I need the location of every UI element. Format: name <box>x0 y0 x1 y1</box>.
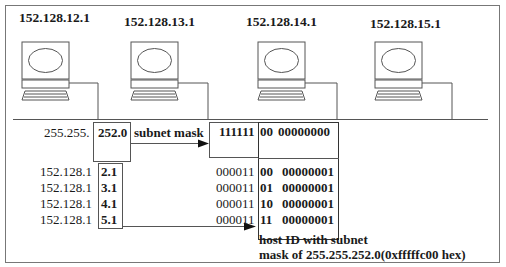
mask-network-bits: 111111 <box>219 124 254 139</box>
address-suffix: 3.1 <box>101 180 117 195</box>
address-prefix: 152.128.1 <box>40 212 92 227</box>
address-network-bits: 000011 <box>216 196 255 211</box>
divider <box>258 158 339 159</box>
mask-host-bits: 00000000 <box>278 124 330 139</box>
mask-subnet-bits: 00 <box>260 124 273 139</box>
computer-icon <box>22 42 69 100</box>
address-host-bits: 00000001 <box>282 196 334 211</box>
host-ip-label: 152.128.15.1 <box>370 16 441 31</box>
computer-icon <box>375 42 422 100</box>
address-suffix: 5.1 <box>101 212 117 227</box>
address-prefix: 152.128.1 <box>40 180 92 195</box>
address-subnet-bits: 11 <box>260 212 272 227</box>
host-ip-label: 152.128.12.1 <box>19 10 90 25</box>
caption-line-2: mask of 255.255.252.0(0xfffffc00 hex) <box>259 247 466 262</box>
address-host-bits: 00000001 <box>282 164 334 179</box>
address-host-bits: 00000001 <box>282 212 334 227</box>
mask-value: 252.0 <box>98 125 127 140</box>
host-ip-label: 152.128.13.1 <box>124 14 195 29</box>
address-network-bits: 000011 <box>216 180 255 195</box>
arrow-right-icon <box>198 140 209 148</box>
caption-line-1: host ID with subnet <box>259 232 368 247</box>
address-suffix: 2.1 <box>101 164 117 179</box>
address-network-bits: 000011 <box>216 212 255 227</box>
address-network-bits: 000011 <box>216 164 255 179</box>
host-ip-label: 152.128.14.1 <box>246 14 317 29</box>
mask-prefix: 255.255. <box>44 125 90 140</box>
address-prefix: 152.128.1 <box>40 164 92 179</box>
address-host-bits: 00000001 <box>282 180 334 195</box>
address-subnet-bits: 10 <box>260 196 273 211</box>
computer-icon <box>131 42 178 100</box>
address-suffix: 4.1 <box>101 196 117 211</box>
address-subnet-bits: 01 <box>260 180 273 195</box>
address-subnet-bits: 00 <box>260 164 273 179</box>
computer-icon <box>258 42 305 100</box>
address-prefix: 152.128.1 <box>40 196 92 211</box>
mask-label: subnet mask <box>134 125 204 140</box>
